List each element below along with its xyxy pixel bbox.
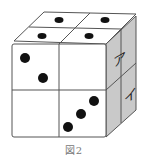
cube-diagram: ア イ — [0, 0, 148, 159]
pip-top-front-left — [38, 33, 47, 39]
pip-front-br-2 — [76, 109, 86, 119]
figure-caption: 図2 — [0, 142, 148, 157]
pip-front-br-1 — [89, 96, 99, 106]
pip-front-br-3 — [63, 122, 73, 132]
pip-front-tl-1 — [20, 53, 30, 63]
pip-top-back-left — [55, 17, 64, 23]
pip-front-tl-2 — [38, 73, 48, 83]
pip-top-back-right — [101, 17, 110, 23]
pip-top-front-right — [85, 33, 94, 39]
